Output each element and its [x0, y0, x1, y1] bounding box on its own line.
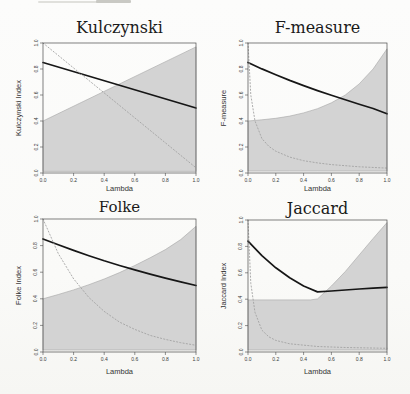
y-tick-label: 0.4	[33, 295, 39, 302]
y-tick-label: 0.8	[33, 65, 39, 72]
x-tick-label: 1.0	[193, 177, 200, 183]
y-tick-label: 0.6	[238, 91, 244, 98]
plot-f-measure: 0.00.20.40.60.81.00.00.20.40.60.81.0F-me…	[205, 0, 410, 197]
x-axis-label: Lambda	[106, 367, 134, 376]
y-tick-label: 0.8	[238, 65, 244, 72]
x-tick-label: 1.0	[384, 177, 391, 183]
y-tick-label: 1.0	[238, 216, 244, 223]
x-tick-label: 0.8	[356, 356, 363, 362]
x-tick-label: 1.0	[193, 356, 200, 362]
y-tick-label: 0.0	[238, 348, 244, 355]
x-axis-label: Lambda	[304, 184, 332, 193]
plot-title: Kulczynski	[76, 18, 163, 37]
y-tick-label: 0.0	[33, 348, 39, 355]
y-tick-label: 0.2	[238, 322, 244, 329]
x-tick-label: 0.6	[131, 177, 138, 183]
x-tick-label: 0.2	[272, 356, 279, 362]
x-tick-label: 0.0	[245, 356, 252, 362]
x-tick-label: 0.4	[101, 356, 108, 362]
x-tick-label: 0.0	[245, 177, 252, 183]
confidence-band	[43, 226, 196, 350]
y-tick-label: 0.4	[238, 296, 244, 303]
y-tick-label: 1.0	[33, 215, 39, 222]
index-comparison-figure: 0.00.20.40.60.81.00.00.20.40.60.81.0Kulc…	[0, 0, 410, 394]
y-tick-label: 0.2	[33, 143, 39, 150]
x-tick-label: 0.0	[40, 177, 47, 183]
y-axis-label: Folke Index	[14, 266, 23, 305]
y-tick-label: 0.8	[238, 243, 244, 250]
y-tick-label: 0.0	[33, 169, 39, 176]
x-axis-label: Lambda	[106, 184, 134, 193]
plot-kulczynski: 0.00.20.40.60.81.00.00.20.40.60.81.0Kulc…	[0, 0, 205, 197]
x-tick-label: 0.2	[272, 177, 279, 183]
y-tick-label: 0.8	[33, 242, 39, 249]
x-axis-label: Lambda	[304, 367, 332, 376]
confidence-band	[43, 47, 196, 171]
y-tick-label: 0.6	[238, 269, 244, 276]
y-tick-label: 0.2	[33, 322, 39, 329]
plot-title: F-measure	[275, 18, 361, 37]
x-tick-label: 0.0	[40, 356, 47, 362]
y-axis-label: Kulczynski Index	[14, 80, 23, 136]
plot-title: Jaccard	[285, 199, 348, 218]
x-tick-label: 0.2	[70, 356, 77, 362]
x-tick-label: 0.8	[162, 356, 169, 362]
y-tick-label: 1.0	[238, 39, 244, 46]
x-tick-label: 0.4	[101, 177, 108, 183]
y-tick-label: 0.4	[33, 117, 39, 124]
x-tick-label: 1.0	[384, 356, 391, 362]
y-tick-label: 0.2	[238, 143, 244, 150]
y-tick-label: 0.6	[33, 269, 39, 276]
confidence-band	[248, 223, 387, 350]
y-tick-label: 1.0	[33, 39, 39, 46]
x-tick-label: 0.6	[131, 356, 138, 362]
x-tick-label: 0.8	[162, 177, 169, 183]
plot-folke: 0.00.20.40.60.81.00.00.20.40.60.81.0Folk…	[0, 197, 205, 394]
x-tick-label: 0.4	[300, 177, 307, 183]
plot-jaccard: 0.00.20.40.60.81.00.00.20.40.60.81.0Jacc…	[205, 197, 410, 394]
x-tick-label: 0.6	[328, 356, 335, 362]
y-tick-label: 0.6	[33, 91, 39, 98]
x-tick-label: 0.6	[328, 177, 335, 183]
confidence-band	[248, 49, 387, 171]
y-tick-label: 0.4	[238, 117, 244, 124]
y-axis-label: Jaccard Index	[219, 262, 228, 309]
x-tick-label: 0.2	[70, 177, 77, 183]
x-tick-label: 0.4	[300, 356, 307, 362]
y-axis-label: F-measure	[219, 90, 228, 126]
y-tick-label: 0.0	[238, 169, 244, 176]
plot-title: Folke	[99, 198, 141, 216]
x-tick-label: 0.8	[356, 177, 363, 183]
